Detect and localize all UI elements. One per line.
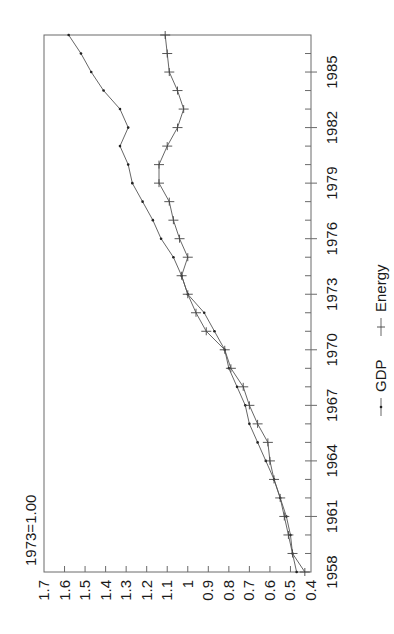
series-layer <box>67 31 309 576</box>
series-gdp <box>67 34 298 574</box>
series-line-gdp <box>69 35 297 572</box>
year-tick-label: 1976 <box>323 222 340 255</box>
value-tick-label: 1 <box>179 580 196 588</box>
legend: GDP Energy <box>372 264 389 416</box>
value-tick-label: 0.8 <box>220 580 237 601</box>
data-point <box>152 219 155 222</box>
data-point <box>127 126 130 129</box>
data-point <box>119 145 122 148</box>
data-point <box>213 330 216 333</box>
value-tick-label: 1.5 <box>76 580 93 601</box>
data-point <box>131 182 134 185</box>
line-chart: 1.71.61.51.41.31.21.110.90.80.70.60.50.4… <box>0 0 394 634</box>
year-tick-label: 1964 <box>323 444 340 477</box>
plot-frame <box>44 35 311 572</box>
data-point <box>80 52 83 55</box>
series-energy <box>154 31 310 576</box>
index-annotation: 1973=1.00 <box>22 495 39 566</box>
year-tick-label: 1958 <box>323 555 340 588</box>
value-tick-label: 1.7 <box>35 580 52 601</box>
year-tick-label: 1985 <box>323 55 340 88</box>
year-tick-label: 1961 <box>323 500 340 533</box>
year-tick-label: 1973 <box>323 278 340 311</box>
data-point <box>248 423 251 426</box>
year-tick-label: 1979 <box>323 166 340 199</box>
value-tick-label: 1.1 <box>158 580 175 601</box>
value-axis: 1.71.61.51.41.31.21.110.90.80.70.60.50.4 <box>35 566 319 601</box>
value-tick-label: 1.2 <box>138 580 155 601</box>
value-tick-label: 1.4 <box>97 580 114 601</box>
data-point <box>160 237 163 240</box>
data-point <box>141 200 144 203</box>
value-tick-label: 0.6 <box>261 580 278 601</box>
year-tick-label: 1967 <box>323 389 340 422</box>
data-point <box>102 89 105 92</box>
legend-gdp-label: GDP <box>372 359 389 392</box>
value-tick-label: 1.3 <box>117 580 134 601</box>
value-tick-label: 0.7 <box>240 580 257 601</box>
legend-gdp-dot-icon <box>380 406 383 409</box>
series-line-energy <box>159 35 305 572</box>
legend-item-gdp: GDP <box>372 359 389 416</box>
data-point <box>127 163 130 166</box>
legend-energy-label: Energy <box>372 264 389 312</box>
year-tick-label: 1982 <box>323 111 340 144</box>
data-point <box>203 311 206 314</box>
legend-item-energy: Energy <box>372 264 389 336</box>
data-point <box>90 71 93 74</box>
value-tick-label: 1.6 <box>56 580 73 601</box>
data-point <box>295 571 298 574</box>
year-axis: 1958196119641967197019731976197919821985 <box>305 54 340 589</box>
value-tick-label: 0.4 <box>302 580 319 601</box>
value-tick-label: 0.5 <box>281 580 298 601</box>
data-point <box>256 441 259 444</box>
value-tick-label: 0.9 <box>199 580 216 601</box>
data-point <box>119 108 122 111</box>
data-point <box>236 386 239 389</box>
data-point <box>172 256 175 259</box>
data-point <box>67 34 70 37</box>
year-tick-label: 1970 <box>323 333 340 366</box>
